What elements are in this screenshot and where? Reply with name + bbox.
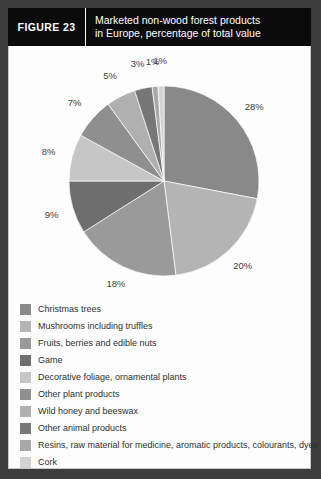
figure-header: FIGURE 23 Marketed non-wood forest produ…: [8, 8, 311, 46]
legend-swatch: [20, 372, 31, 383]
legend-item[interactable]: Cork: [20, 454, 305, 471]
figure-title-line2: in Europe, percentage of total value: [95, 27, 305, 40]
legend-swatch: [20, 440, 31, 451]
legend-item[interactable]: Fruits, berries and edible nuts: [20, 335, 305, 352]
figure-title: Marketed non-wood forest products in Eur…: [86, 8, 311, 46]
legend-item-label: Resins, raw material for medicine, aroma…: [38, 440, 318, 451]
legend-swatch: [20, 423, 31, 434]
chart-legend: Christmas treesMushrooms including truff…: [20, 301, 305, 471]
legend-swatch: [20, 355, 31, 366]
pie-value-label: 7%: [68, 97, 82, 108]
legend-item[interactable]: Christmas trees: [20, 301, 305, 318]
pie-value-label: 28%: [245, 101, 264, 112]
figure-number-label: FIGURE 23: [18, 21, 76, 33]
legend-item[interactable]: Other plant products: [20, 386, 305, 403]
pie-chart-area: 28%20%18%9%8%7%5%3%1%1%: [9, 46, 310, 296]
pie-value-label: 8%: [42, 146, 56, 157]
legend-item-label: Christmas trees: [38, 304, 101, 315]
pie-value-label: 5%: [103, 70, 117, 81]
pie-value-label: 18%: [106, 278, 125, 289]
legend-item-label: Game: [38, 355, 63, 366]
legend-item[interactable]: Other animal products: [20, 420, 305, 437]
legend-item-label: Fruits, berries and edible nuts: [38, 338, 157, 349]
pie-chart: [9, 46, 310, 296]
legend-item[interactable]: Game: [20, 352, 305, 369]
figure-title-line1: Marketed non-wood forest products: [95, 14, 305, 27]
legend-item[interactable]: Resins, raw material for medicine, aroma…: [20, 437, 305, 454]
legend-swatch: [20, 321, 31, 332]
legend-item-label: Decorative foliage, ornamental plants: [38, 372, 187, 383]
legend-item-label: Other plant products: [38, 389, 120, 400]
legend-item-label: Mushrooms including truffles: [38, 321, 152, 332]
legend-item[interactable]: Decorative foliage, ornamental plants: [20, 369, 305, 386]
legend-item[interactable]: Wild honey and beeswax: [20, 403, 305, 420]
legend-swatch: [20, 338, 31, 349]
pie-value-label: 3%: [131, 57, 145, 68]
legend-swatch: [20, 406, 31, 417]
legend-swatch: [20, 389, 31, 400]
legend-item-label: Wild honey and beeswax: [38, 406, 138, 417]
pie-value-label: 9%: [45, 208, 59, 219]
pie-value-label: 1%: [153, 55, 167, 66]
figure-number-box: FIGURE 23: [8, 8, 86, 46]
pie-value-label: 20%: [233, 259, 252, 270]
legend-item[interactable]: Mushrooms including truffles: [20, 318, 305, 335]
legend-item-label: Other animal products: [38, 423, 127, 434]
legend-swatch: [20, 304, 31, 315]
legend-swatch: [20, 457, 31, 468]
figure-body-panel: 28%20%18%9%8%7%5%3%1%1% Christmas treesM…: [8, 46, 311, 469]
figure-card: FIGURE 23 Marketed non-wood forest produ…: [8, 8, 311, 469]
legend-item-label: Cork: [38, 457, 57, 468]
